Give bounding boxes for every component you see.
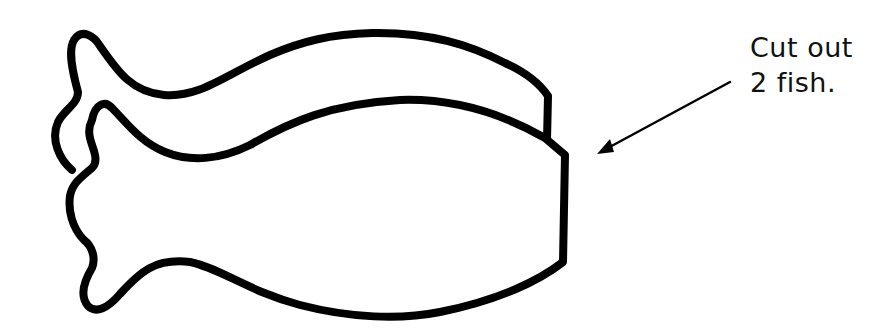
instruction-line-1: Cut out [750,30,853,65]
cut-out-instruction: Cut out 2 fish. [750,30,853,100]
instruction-line-2: 2 fish. [750,65,853,100]
arrow-icon [597,82,730,154]
front-fish-outline [70,100,565,317]
